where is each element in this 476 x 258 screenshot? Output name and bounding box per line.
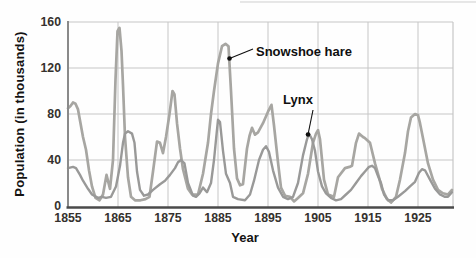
y-tick-label: 160 <box>40 15 61 29</box>
y-axis-title: Population (in thousands) <box>12 31 27 196</box>
hare-pointer-dot <box>227 56 232 61</box>
lynx-pointer-dot <box>306 132 311 137</box>
x-tick-label: 1905 <box>304 211 332 225</box>
y-tick-label: 80 <box>47 107 61 121</box>
y-tick-label: 120 <box>40 61 61 75</box>
plot-area: 0408012016018551865187518851895190519151… <box>0 0 476 258</box>
x-tick-label: 1915 <box>354 211 382 225</box>
x-tick-label: 1885 <box>204 211 232 225</box>
y-tick-label: 40 <box>47 153 61 167</box>
hare-lynx-population-chart: 0408012016018551865187518851895190519151… <box>0 0 476 258</box>
x-tick-label: 1895 <box>254 211 282 225</box>
lynx-series-label: Lynx <box>283 92 313 107</box>
x-tick-label: 1875 <box>154 211 182 225</box>
x-tick-label: 1865 <box>104 211 132 225</box>
x-tick-label: 1925 <box>404 211 432 225</box>
x-axis-title: Year <box>231 230 258 245</box>
x-tick-label: 1855 <box>54 211 82 225</box>
hare-pointer-line <box>230 49 254 59</box>
snowshoe-hare-series-label: Snowshoe hare <box>256 44 352 59</box>
